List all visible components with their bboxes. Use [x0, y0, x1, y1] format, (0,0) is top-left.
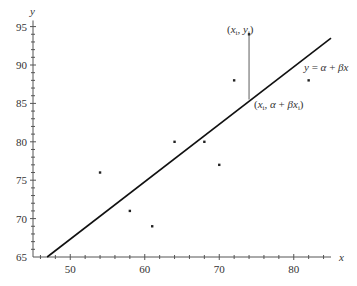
- fitted-point-label: (xi, α + βxi): [254, 98, 304, 112]
- y-tick-label: 95: [16, 21, 28, 33]
- y-axis-label: y: [29, 5, 35, 17]
- y-tick-label: 85: [16, 97, 28, 109]
- data-point: [129, 210, 131, 212]
- x-axis-label: x: [338, 251, 344, 263]
- data-point: [151, 225, 153, 227]
- x-tick-label: 60: [139, 263, 151, 275]
- data-point: [218, 164, 220, 166]
- data-point: [233, 79, 235, 81]
- x-tick-label: 70: [214, 263, 226, 275]
- x-tick-label: 80: [288, 263, 300, 275]
- x-tick-label: 50: [65, 263, 77, 275]
- data-points: [99, 33, 310, 227]
- y-tick-label: 70: [16, 213, 28, 225]
- data-point: [203, 141, 205, 143]
- data-point: [173, 141, 175, 143]
- regression-line-path: [47, 38, 331, 257]
- data-point: [99, 171, 101, 173]
- axes: 5060708065707580859095: [16, 20, 331, 275]
- point-label-xi-yi: (xi, yi): [227, 23, 254, 37]
- y-tick-label: 75: [16, 174, 28, 186]
- data-point: [307, 79, 309, 81]
- y-tick-label: 80: [16, 136, 28, 148]
- y-tick-label: 65: [16, 251, 28, 263]
- scatter-regression-chart: 5060708065707580859095 y x (xi, yi) y = …: [0, 0, 357, 286]
- regression-equation-label: y = α + βx: [303, 61, 349, 73]
- y-tick-label: 90: [16, 59, 28, 71]
- regression-line: [47, 38, 331, 257]
